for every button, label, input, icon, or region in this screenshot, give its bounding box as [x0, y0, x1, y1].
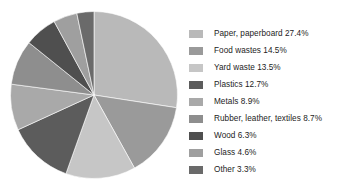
legend-item-label: Plastics 12.7% [214, 80, 268, 90]
legend-swatch-icon [189, 149, 203, 157]
legend-swatch-icon [189, 98, 203, 106]
legend-item[interactable]: Food wastes 14.5% [189, 42, 353, 59]
pie-slice[interactable] [94, 12, 177, 108]
legend-item-label: Wood 6.3% [214, 131, 257, 141]
legend-item-label: Metals 8.9% [214, 97, 260, 107]
legend-item[interactable]: Rubber, leather, textiles 8.7% [189, 110, 353, 127]
legend-item-label: Rubber, leather, textiles 8.7% [214, 114, 322, 124]
legend-item-label: Yard waste 13.5% [214, 63, 281, 73]
legend-item-label: Paper, paperboard 27.4% [214, 29, 308, 39]
legend-swatch-icon [189, 132, 203, 140]
legend-item-label: Food wastes 14.5% [214, 46, 287, 56]
legend-item-label: Glass 4.6% [214, 148, 256, 158]
legend-item[interactable]: Wood 6.3% [189, 127, 353, 144]
legend-item-label: Other 3.3% [214, 165, 256, 175]
chart-legend: Paper, paperboard 27.4%Food wastes 14.5%… [189, 25, 353, 178]
legend-swatch-icon [189, 47, 203, 55]
legend-item[interactable]: Glass 4.6% [189, 144, 353, 161]
legend-swatch-icon [189, 30, 203, 38]
pie-plot-area [0, 0, 190, 186]
legend-item[interactable]: Plastics 12.7% [189, 76, 353, 93]
pie-svg [0, 0, 190, 186]
legend-item[interactable]: Metals 8.9% [189, 93, 353, 110]
legend-item[interactable]: Paper, paperboard 27.4% [189, 25, 353, 42]
legend-swatch-icon [189, 64, 203, 72]
legend-swatch-icon [189, 115, 203, 123]
legend-item[interactable]: Other 3.3% [189, 161, 353, 178]
legend-item[interactable]: Yard waste 13.5% [189, 59, 353, 76]
pie-chart-figure: Paper, paperboard 27.4%Food wastes 14.5%… [0, 0, 353, 186]
legend-swatch-icon [189, 166, 203, 174]
legend-swatch-icon [189, 81, 203, 89]
